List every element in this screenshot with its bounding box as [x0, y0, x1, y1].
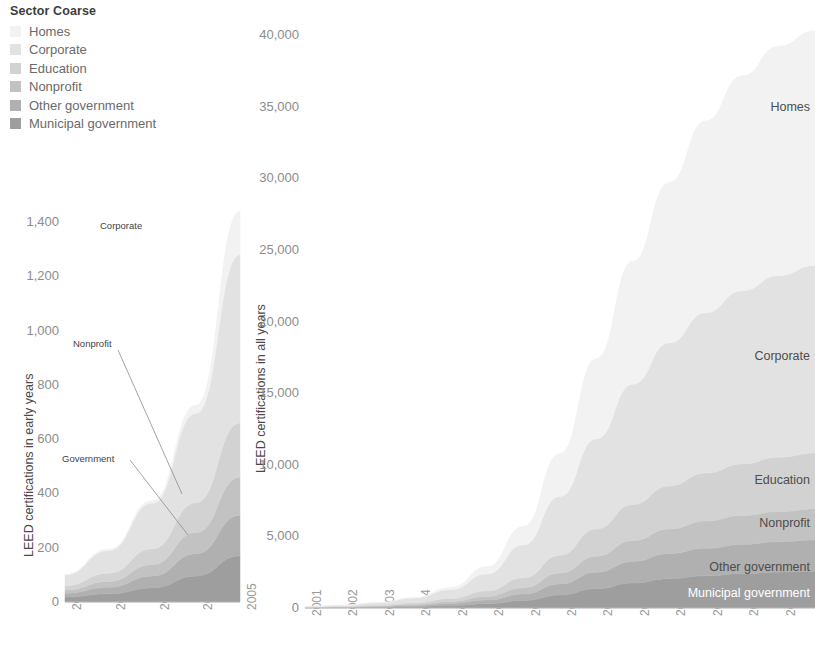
y-tick-label: 1,400 [0, 214, 59, 229]
y-tick-label: 30,000 [235, 170, 299, 185]
area-plot-all [305, 28, 815, 608]
series-label-homes: Homes [770, 100, 810, 114]
legend-swatch-icon [10, 63, 21, 74]
annotation-label: Nonprofit [73, 338, 112, 349]
legend-item-label: Nonprofit [29, 79, 82, 94]
y-tick-label: 15,000 [235, 385, 299, 400]
legend-item-label: Homes [29, 24, 70, 39]
legend-item-label: Municipal government [29, 116, 156, 131]
chart-all-years: LEED certifications in all years 05,0001… [240, 10, 815, 652]
legend-item-label: Other government [29, 98, 134, 113]
y-tick-label: 5,000 [235, 528, 299, 543]
legend-item[interactable]: Other government [8, 96, 238, 115]
y-tick-label: 35,000 [235, 99, 299, 114]
y-tick-label: 10,000 [235, 457, 299, 472]
legend-item[interactable]: Education [8, 59, 238, 78]
series-label-education: Education [754, 473, 810, 487]
y-axis-title-early: LEED certifications in early years [22, 374, 36, 557]
y-tick-label: 200 [0, 540, 59, 555]
y-tick-label: 20,000 [235, 314, 299, 329]
legend-swatch-icon [10, 118, 21, 129]
series-label-municipal-government: Municipal government [688, 586, 810, 600]
legend-item[interactable]: Corporate [8, 41, 238, 60]
legend-item-label: Education [29, 61, 87, 76]
area-plot-early [65, 195, 240, 602]
legend-swatch-icon [10, 100, 21, 111]
y-tick-label: 0 [0, 594, 59, 609]
legend-swatch-icon [10, 26, 21, 37]
annotation-label: Government [62, 453, 114, 464]
legend-item[interactable]: Nonprofit [8, 78, 238, 97]
legend-items: HomesCorporateEducationNonprofitOther go… [8, 22, 238, 133]
y-tick-label: 0 [235, 600, 299, 615]
series-label-nonprofit: Nonprofit [759, 516, 810, 530]
legend: Sector Coarse HomesCorporateEducationNon… [8, 4, 238, 133]
chart-early-years: LEED certifications in early years 02004… [0, 160, 250, 652]
y-tick-label: 400 [0, 485, 59, 500]
legend-swatch-icon [10, 81, 21, 92]
y-tick-label: 800 [0, 377, 59, 392]
legend-swatch-icon [10, 44, 21, 55]
y-tick-label: 1,000 [0, 323, 59, 338]
y-tick-label: 600 [0, 431, 59, 446]
y-tick-label: 40,000 [235, 27, 299, 42]
annotation-label: Corporate [100, 220, 142, 231]
series-label-corporate: Corporate [754, 349, 810, 363]
legend-item-label: Corporate [29, 42, 87, 57]
series-label-other-government: Other government [709, 560, 810, 574]
legend-item[interactable]: Municipal government [8, 115, 238, 134]
legend-item[interactable]: Homes [8, 22, 238, 41]
y-tick-label: 1,200 [0, 268, 59, 283]
y-tick-label: 25,000 [235, 242, 299, 257]
legend-title: Sector Coarse [10, 4, 238, 18]
